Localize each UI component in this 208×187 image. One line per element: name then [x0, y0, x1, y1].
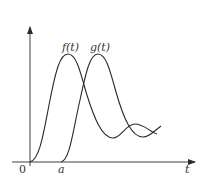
x-tick-a-label: a: [58, 163, 65, 176]
diagram-canvas: f(t) g(t) 0 a t: [0, 0, 208, 187]
x-axis-label: t: [185, 163, 190, 176]
curve-g-label: g(t): [90, 41, 110, 54]
curve-f: [30, 54, 157, 162]
curve-g: [61, 54, 161, 162]
curve-f-label: f(t): [61, 41, 79, 54]
origin-label: 0: [19, 163, 26, 176]
